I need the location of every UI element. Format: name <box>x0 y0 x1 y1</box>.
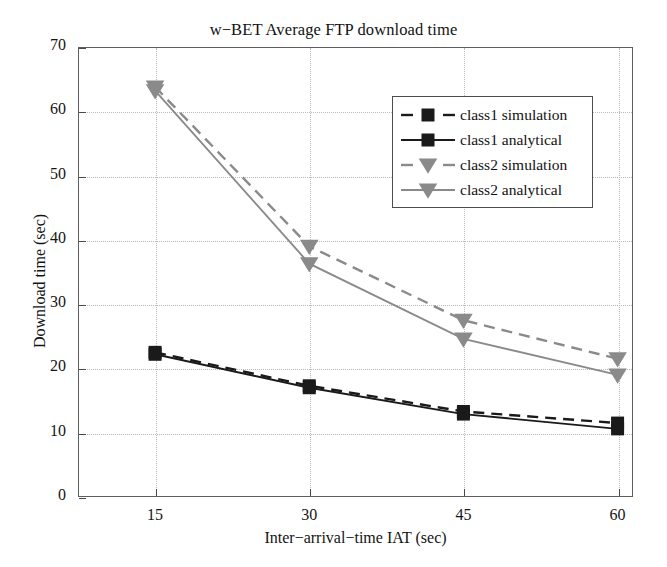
legend-sample-square-solid <box>399 129 457 151</box>
data-marker-triangle-down <box>608 352 627 367</box>
series-class1-analytical <box>149 348 624 436</box>
data-marker-triangle-down <box>300 240 319 255</box>
y-axis-label: Download time (sec) <box>31 161 49 401</box>
legend: class1 simulationclass1 analyticalclass2… <box>392 96 593 208</box>
data-marker-triangle-down <box>300 257 319 272</box>
legend-item[interactable]: class1 analytical <box>393 127 592 152</box>
legend-sample-triangle-down-dashed <box>399 154 457 176</box>
legend-item[interactable]: class2 simulation <box>393 152 592 177</box>
y-tick-mark <box>79 498 86 499</box>
data-marker-square <box>611 422 624 435</box>
figure: w−BET Average FTP download time 01020304… <box>0 0 667 567</box>
legend-sample-triangle-down-solid <box>399 179 457 201</box>
legend-item[interactable]: class2 analytical <box>393 177 592 202</box>
legend-item[interactable]: class1 simulation <box>393 102 592 127</box>
legend-label: class2 simulation <box>457 156 567 174</box>
data-marker-triangle-down <box>608 368 627 383</box>
legend-label: class1 analytical <box>457 131 562 149</box>
y-tick-label: 70 <box>0 36 66 54</box>
legend-label: class2 analytical <box>457 181 562 199</box>
chart-title: w−BET Average FTP download time <box>0 20 667 40</box>
series-line <box>155 352 617 423</box>
data-marker-square <box>422 133 435 146</box>
x-tick-label: 15 <box>125 506 185 524</box>
legend-label: class1 simulation <box>457 106 567 124</box>
data-marker-square <box>149 348 162 361</box>
data-marker-square <box>457 408 470 421</box>
x-tick-label: 60 <box>588 506 648 524</box>
x-tick-label: 30 <box>279 506 339 524</box>
data-marker-triangle-down <box>419 183 438 198</box>
y-tick-label: 10 <box>0 422 66 440</box>
data-marker-square <box>303 381 316 394</box>
y-tick-label: 60 <box>0 100 66 118</box>
legend-sample-square-dashed <box>399 104 457 126</box>
y-tick-label: 0 <box>0 486 66 504</box>
data-marker-square <box>422 108 435 121</box>
series-class1-simulation <box>149 346 624 430</box>
data-marker-triangle-down <box>419 158 438 173</box>
x-tick-label: 45 <box>433 506 493 524</box>
x-axis-label: Inter−arrival−time IAT (sec) <box>78 529 633 547</box>
